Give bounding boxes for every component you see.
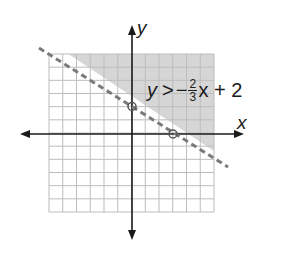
fraction-denominator: 3 xyxy=(190,91,197,103)
x-axis-label: x xyxy=(237,112,247,134)
inequality-label: y > − 2 3 x + 2 xyxy=(147,78,242,103)
fraction-numerator: 2 xyxy=(190,78,197,90)
y-axis-down-arrow-icon xyxy=(128,230,136,240)
fraction: 2 3 xyxy=(188,78,197,103)
inequality-sign: − xyxy=(176,79,188,102)
inequality-operator: > xyxy=(162,79,174,102)
graph: y x y > − 2 3 x + 2 xyxy=(0,0,287,253)
inequality-rest: x + 2 xyxy=(198,79,242,102)
y-axis-label: y xyxy=(137,17,147,39)
inequality-lhs: y xyxy=(147,79,157,102)
y-axis-up-arrow-icon xyxy=(128,25,136,35)
x-axis-left-arrow-icon xyxy=(20,130,30,138)
